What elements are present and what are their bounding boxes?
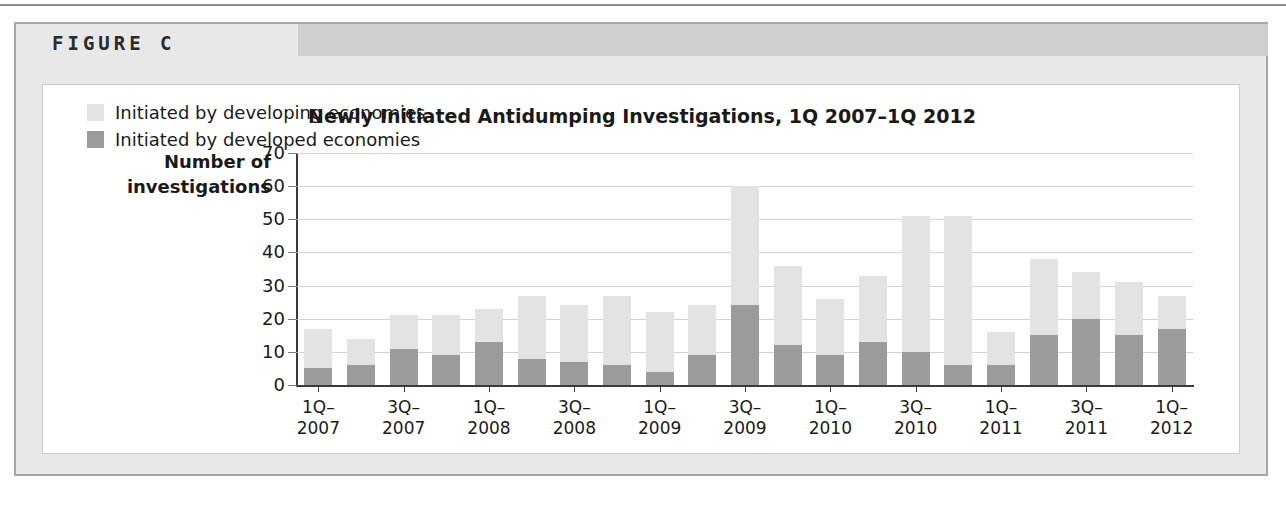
bar-3q-2008	[560, 305, 588, 385]
bar-2q-2010	[859, 276, 887, 385]
bar-1q-2010	[816, 299, 844, 385]
bar-1q-2012	[1158, 296, 1186, 385]
bar-segment-developing	[603, 296, 631, 366]
chart-legend: Initiated by developing economiesInitiat…	[87, 99, 426, 153]
bar-3q-2009	[731, 186, 759, 385]
bar-segment-developing	[304, 329, 332, 369]
bar-segment-developing	[1158, 296, 1186, 329]
y-tick-label: 40	[241, 243, 285, 261]
x-tick-label: 1Q–2011	[962, 397, 1040, 439]
figure-panel: FIGURE C Newly Initiated Antidumping Inv…	[14, 22, 1268, 476]
bar-segment-developing	[944, 216, 972, 365]
x-tick-label-line: 2012	[1133, 418, 1211, 439]
bar-segment-developing	[390, 315, 418, 348]
x-tick-label-line: 1Q–	[621, 397, 699, 418]
x-tick-label: 3Q–2007	[365, 397, 443, 439]
x-tick-mark	[574, 385, 575, 392]
bar-segment-developing	[1115, 282, 1143, 335]
bar-1q-2009	[646, 312, 674, 385]
y-tick-mark	[288, 385, 297, 386]
plot-area: 0102030405060701Q–20073Q–20071Q–20083Q–2…	[297, 153, 1193, 385]
bar-segment-developing	[1030, 259, 1058, 335]
x-tick-label-line: 1Q–	[279, 397, 357, 418]
y-tick-label: 10	[241, 343, 285, 361]
x-tick-label-line: 2011	[1047, 418, 1125, 439]
bar-4q-2007	[432, 315, 460, 385]
bar-segment-developing	[688, 305, 716, 355]
x-tick-label-line: 3Q–	[706, 397, 784, 418]
bar-segment-developing	[560, 305, 588, 361]
legend-item-1[interactable]: Initiated by developed economies	[87, 126, 426, 153]
bar-4q-2009	[774, 266, 802, 385]
x-tick-label: 1Q–2009	[621, 397, 699, 439]
bar-segment-developing	[987, 332, 1015, 365]
bar-2q-2008	[518, 296, 546, 385]
y-tick-mark	[288, 252, 297, 253]
bar-segment-developed	[944, 365, 972, 385]
y-tick-mark	[288, 186, 297, 187]
bar-2q-2011	[1030, 259, 1058, 385]
x-tick-label-line: 2011	[962, 418, 1040, 439]
bar-segment-developed	[688, 355, 716, 385]
bar-segment-developed	[1115, 335, 1143, 385]
x-tick-label: 3Q–2009	[706, 397, 784, 439]
x-tick-mark	[1172, 385, 1173, 392]
bar-segment-developed	[646, 372, 674, 385]
x-tick-mark	[318, 385, 319, 392]
x-tick-label-line: 3Q–	[535, 397, 613, 418]
y-tick-mark	[288, 219, 297, 220]
y-tick-mark	[288, 352, 297, 353]
bar-2q-2007	[347, 339, 375, 385]
bar-4q-2008	[603, 296, 631, 385]
y-tick-label: 0	[241, 376, 285, 394]
legend-swatch-icon	[87, 131, 104, 148]
x-tick-label-line: 2008	[535, 418, 613, 439]
x-tick-label-line: 1Q–	[791, 397, 869, 418]
bar-segment-developing	[646, 312, 674, 372]
bar-segment-developed	[475, 342, 503, 385]
x-tick-label-line: 1Q–	[1133, 397, 1211, 418]
x-tick-mark	[830, 385, 831, 392]
x-tick-label: 3Q–2011	[1047, 397, 1125, 439]
x-tick-label-line: 1Q–	[450, 397, 528, 418]
x-tick-label-line: 2010	[791, 418, 869, 439]
y-tick-mark	[288, 319, 297, 320]
x-tick-label-line: 2008	[450, 418, 528, 439]
y-tick-mark	[288, 153, 297, 154]
x-tick-mark	[1086, 385, 1087, 392]
bar-segment-developed	[560, 362, 588, 385]
y-tick-label: 50	[241, 210, 285, 228]
x-tick-mark	[745, 385, 746, 392]
x-tick-mark	[404, 385, 405, 392]
bar-3q-2007	[390, 315, 418, 385]
figure-label: FIGURE C	[52, 32, 176, 54]
bar-segment-developing	[475, 309, 503, 342]
x-tick-label: 3Q–2008	[535, 397, 613, 439]
x-tick-label: 1Q–2008	[450, 397, 528, 439]
x-tick-label-line: 2009	[621, 418, 699, 439]
bar-segment-developing	[347, 339, 375, 366]
bar-segment-developed	[731, 305, 759, 385]
x-tick-label: 1Q–2007	[279, 397, 357, 439]
legend-swatch-icon	[87, 104, 104, 121]
x-tick-label-line: 2009	[706, 418, 784, 439]
x-tick-label-line: 3Q–	[877, 397, 955, 418]
bar-segment-developing	[1072, 272, 1100, 318]
x-tick-mark	[489, 385, 490, 392]
bar-segment-developed	[603, 365, 631, 385]
x-tick-label: 1Q–2010	[791, 397, 869, 439]
bar-4q-2010	[944, 216, 972, 385]
bar-4q-2011	[1115, 282, 1143, 385]
x-tick-label-line: 2007	[279, 418, 357, 439]
legend-label: Initiated by developed economies	[115, 129, 420, 150]
bar-segment-developed	[859, 342, 887, 385]
y-tick-label: 20	[241, 310, 285, 328]
x-tick-mark	[660, 385, 661, 392]
x-tick-label: 3Q–2010	[877, 397, 955, 439]
bar-segment-developed	[347, 365, 375, 385]
bar-segment-developing	[902, 216, 930, 352]
bar-segment-developing	[432, 315, 460, 355]
legend-item-0[interactable]: Initiated by developing economies	[87, 99, 426, 126]
bar-segment-developed	[1030, 335, 1058, 385]
figure-root: FIGURE C Newly Initiated Antidumping Inv…	[0, 0, 1286, 516]
